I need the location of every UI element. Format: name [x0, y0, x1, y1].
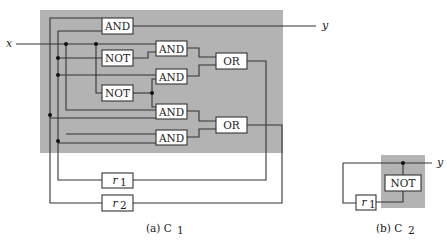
and-gate-3: AND — [156, 69, 187, 84]
input-x-label: x — [6, 37, 13, 50]
gate-label: OR — [223, 55, 241, 67]
register-subscript: 1 — [369, 198, 376, 210]
caption-c1: (a) C — [146, 222, 172, 234]
gate-label: NOT — [105, 52, 130, 64]
circuit-diagram: AND NOT AND AND NOT AND AND OR — [0, 0, 447, 242]
and-gate-4: AND — [156, 104, 187, 119]
gate-label: NOT — [105, 87, 130, 99]
c2-feedback-wire — [343, 163, 356, 203]
gate-label: AND — [104, 20, 130, 32]
c2-register-r1: r 1 — [356, 195, 376, 210]
not-gate-1: NOT — [102, 50, 133, 66]
gate-label: AND — [158, 132, 184, 144]
junction-dot — [150, 91, 154, 95]
junction-dot — [48, 113, 52, 117]
junction-dot — [94, 42, 98, 46]
or-gate-2: OR — [216, 117, 247, 133]
junction-dot — [401, 161, 405, 165]
gate-label: NOT — [391, 177, 416, 189]
register-subscript: 1 — [120, 176, 127, 188]
junction-dot — [56, 56, 60, 60]
register-r1: r 1 — [102, 173, 133, 188]
junction-dot — [56, 73, 60, 77]
c2-output-y-label: y — [436, 156, 444, 169]
junction-dot — [64, 42, 68, 46]
register-subscript: 2 — [120, 199, 127, 211]
caption-c2-subscript: 2 — [408, 224, 415, 236]
and-gate-1: AND — [102, 18, 133, 34]
and-gate-2: AND — [156, 41, 187, 56]
gate-label: AND — [158, 43, 184, 55]
output-y-label: y — [321, 19, 329, 32]
and-gate-5: AND — [156, 130, 187, 145]
gate-label: AND — [158, 106, 184, 118]
circuit-c2: NOT r 1 y (b) C 2 — [343, 155, 444, 236]
caption-c2: (b) C — [376, 222, 402, 234]
or-gate-1: OR — [216, 53, 247, 69]
gate-label: AND — [158, 71, 184, 83]
junction-dot — [56, 139, 60, 143]
caption-c1-subscript: 1 — [177, 224, 184, 236]
gate-label: OR — [223, 119, 241, 131]
c2-not-gate: NOT — [385, 175, 421, 191]
register-r2: r 2 — [102, 195, 133, 211]
not-gate-2: NOT — [102, 85, 133, 101]
circuit-c1: AND NOT AND AND NOT AND AND OR — [6, 10, 329, 236]
